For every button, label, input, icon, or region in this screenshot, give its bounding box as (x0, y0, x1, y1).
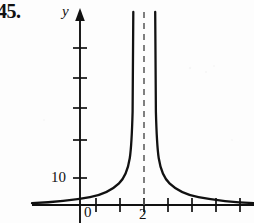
function-graph (0, 0, 254, 223)
y-axis-arrowhead (75, 8, 85, 21)
y-tick-label-10: 10 (51, 170, 66, 185)
exercise-number: 45. (0, 1, 21, 21)
y-axis-label: y (62, 4, 69, 19)
curve-right-branch (155, 12, 254, 203)
origin-label: 0 (84, 205, 92, 220)
figure-container: 45. y 10 0 2 (0, 0, 254, 223)
x-tick-label-2: 2 (139, 207, 147, 222)
